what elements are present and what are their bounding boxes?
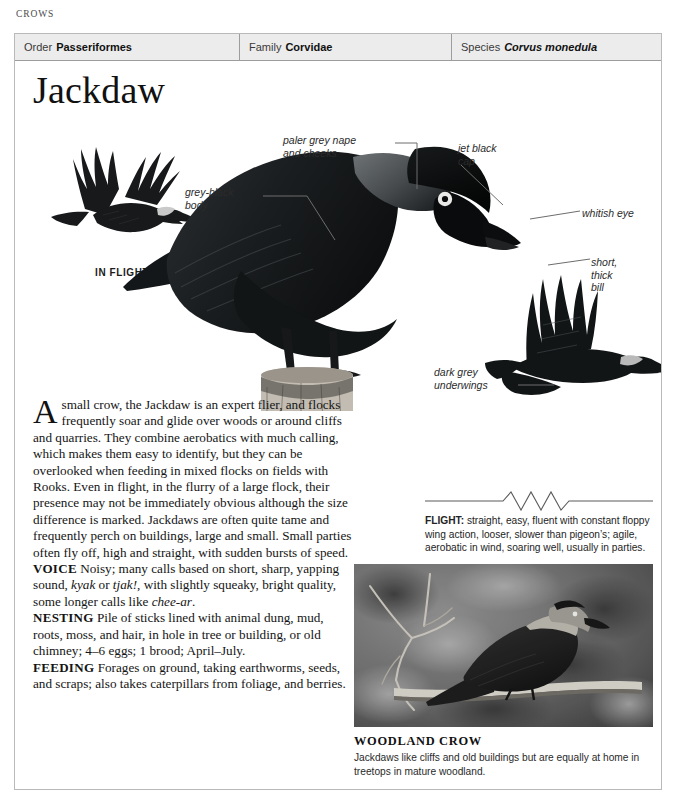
callout-whitish-eye: whitish eye — [582, 207, 661, 220]
section-nesting: NESTING Pile of sticks lined with animal… — [33, 610, 355, 659]
taxonomy-bar: Order Passeriformes Family Corvidae Spec… — [15, 34, 661, 61]
flight-tag: FLIGHT: — [425, 515, 464, 526]
flight-description: FLIGHT: straight, easy, fluent with cons… — [425, 514, 653, 555]
leader-jet-black-cap — [461, 165, 507, 207]
callout-jet-black-cap: jet black cap — [458, 142, 518, 167]
taxonomy-cell-species: Species Corvus monedula — [451, 34, 661, 60]
section-feeding: FEEDING Forages on ground, taking earthw… — [33, 660, 355, 693]
photo-caption-title: WOODLAND CROW — [354, 734, 654, 749]
section-feeding-tag: FEEDING — [33, 660, 94, 675]
callout-grey-black-body: grey-black body — [185, 186, 275, 211]
running-head: CROWS — [16, 9, 54, 19]
species-label: Species — [461, 41, 500, 53]
description-intro-text: small crow, the Jackdaw is an expert fli… — [33, 397, 351, 560]
callout-dark-grey-underwings: dark grey underwings — [434, 366, 526, 391]
species-description: Asmall crow, the Jackdaw is an expert fl… — [33, 397, 355, 692]
leader-grey-black-body — [263, 194, 343, 246]
flight-zigzag-icon — [425, 490, 653, 512]
family-label: Family — [249, 41, 281, 53]
drop-cap: A — [33, 397, 62, 426]
species-value: Corvus monedula — [504, 41, 597, 53]
page-frame: Order Passeriformes Family Corvidae Spec… — [14, 33, 662, 790]
order-label: Order — [24, 41, 52, 53]
description-intro-paragraph: Asmall crow, the Jackdaw is an expert fl… — [33, 397, 355, 561]
section-nesting-tag: NESTING — [33, 610, 94, 625]
section-voice: VOICE Noisy; many calls based on short, … — [33, 561, 355, 610]
flight-panel: FLIGHT: straight, easy, fluent with cons… — [425, 490, 653, 555]
photo-caption-body: Jackdaws like cliffs and old buildings b… — [354, 751, 654, 779]
leader-whitish-eye — [530, 205, 582, 223]
woodland-photo — [354, 564, 653, 727]
woodland-photo-image — [354, 564, 653, 727]
order-value: Passeriformes — [56, 41, 132, 53]
leader-dark-grey-underwings — [518, 379, 556, 389]
taxonomy-cell-order: Order Passeriformes — [15, 34, 239, 60]
woodland-photo-caption: WOODLAND CROW Jackdaws like cliffs and o… — [354, 734, 654, 779]
leader-paler-grey-nape — [395, 141, 435, 193]
family-value: Corvidae — [285, 41, 332, 53]
section-voice-text: Noisy; many calls based on short, sharp,… — [33, 561, 339, 609]
illustration-plate: IN FLIGHT — [15, 61, 661, 411]
flight-rule — [425, 490, 653, 512]
callout-short-thick-bill: short, thick bill — [591, 256, 641, 294]
leader-short-thick-bill — [548, 253, 592, 269]
section-voice-tag: VOICE — [33, 561, 77, 576]
callout-paler-grey-nape: paler grey nape and cheeks — [283, 134, 403, 159]
taxonomy-cell-family: Family Corvidae — [239, 34, 451, 60]
